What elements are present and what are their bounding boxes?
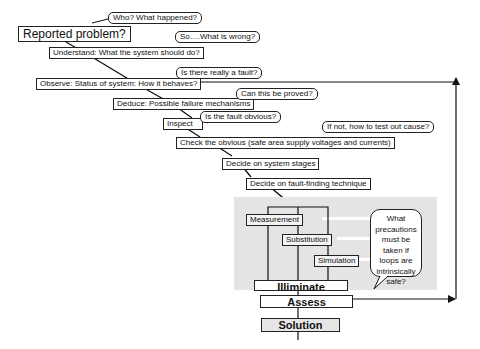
note-tail xyxy=(0,0,480,349)
assess-bar: Assess xyxy=(260,295,353,308)
solution-bar: Solution xyxy=(261,318,340,332)
illiminate-bar: Illiminate xyxy=(254,280,348,291)
